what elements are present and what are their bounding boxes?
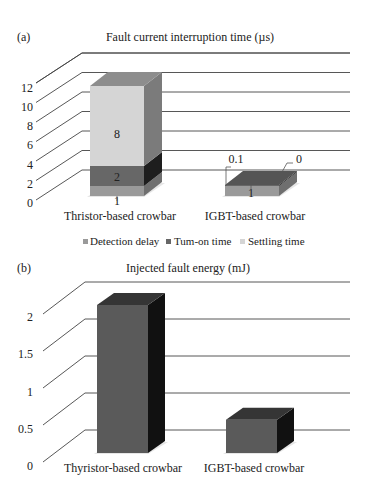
- chart-a-title: Fault current interruption time (µs): [106, 30, 274, 44]
- chart-a-x-axis-labels: Thristor-based crowbar IGBT-based crowba…: [64, 209, 305, 223]
- legend-swatch-detection-delay: [83, 239, 88, 244]
- chart-a-fault-interruption-time: (a) Fault current interruption time (µs)…: [17, 30, 350, 247]
- bar-igbt: [226, 408, 294, 453]
- y-tick-label: 0: [27, 459, 33, 473]
- figure: (a) Fault current interruption time (µs)…: [0, 0, 372, 477]
- leader-line: [282, 163, 293, 172]
- y-tick-label: 0.5: [18, 422, 33, 436]
- legend-label-settling-time: Settling time: [248, 235, 305, 247]
- bar-side-face: [144, 72, 162, 166]
- chart-a-legend: Detection delay Tum-on time Settling tim…: [83, 235, 305, 247]
- chart-a-category-thyristor: Thristor-based crowbar: [64, 209, 176, 223]
- chart-a-category-igbt: IGBT-based crowbar: [205, 209, 306, 223]
- chart-a-panel-label: (a): [17, 30, 30, 44]
- gridline-diagonal: [43, 393, 85, 425]
- bar-segment-settling-time: [90, 72, 162, 166]
- y-tick-label: 8: [27, 119, 33, 133]
- y-tick-label: 2: [27, 310, 33, 324]
- y-tick-label: 0: [27, 196, 33, 210]
- data-label-igbt-settling: 0: [296, 152, 302, 166]
- chart-b-injected-fault-energy: (b) Injected fault energy (mJ) 00.511.52…: [17, 261, 350, 475]
- y-tick-label: 1.5: [18, 347, 33, 361]
- chart-b-gridlines: [43, 282, 350, 462]
- gridline-diagonal: [43, 319, 85, 351]
- data-label-thyristor-settling: 8: [114, 127, 120, 141]
- chart-a-gridlines: [36, 53, 350, 200]
- chart-b-panel-label: (b): [17, 261, 31, 275]
- bar-side-face: [148, 293, 165, 453]
- bar-front-face: [226, 420, 277, 453]
- chart-b-x-axis-labels: Thyristor-based crowbar IGBT-based crowb…: [64, 461, 304, 475]
- legend-label-detection-delay: Detection delay: [90, 235, 160, 247]
- gridline-diagonal: [36, 151, 82, 181]
- gridline-diagonal: [36, 131, 82, 161]
- y-tick-label: 6: [27, 138, 33, 152]
- legend-label-turn-on-time: Tum-on time: [174, 235, 231, 247]
- y-tick-label: 10: [21, 100, 33, 114]
- gridline-diagonal: [36, 170, 82, 200]
- y-tick-label: 1: [27, 385, 33, 399]
- y-tick-label: 4: [27, 158, 33, 172]
- gridline-diagonal: [43, 356, 85, 388]
- data-label-thyristor-turn-on: 2: [114, 170, 120, 184]
- legend-swatch-settling-time: [240, 239, 245, 244]
- chart-b-category-thyristor: Thyristor-based crowbar: [64, 461, 182, 475]
- chart-a-y-axis-ticks: 024681012: [21, 81, 33, 210]
- chart-b-y-axis-ticks: 00.511.52: [18, 310, 33, 473]
- y-tick-label: 2: [27, 177, 33, 191]
- gridline-diagonal: [36, 112, 82, 142]
- gridline-diagonal: [36, 53, 82, 83]
- gridline-diagonal: [36, 92, 82, 122]
- y-tick-label: 12: [21, 81, 33, 95]
- bar-front-face: [90, 86, 144, 166]
- chart-b-title: Injected fault energy (mJ): [126, 261, 250, 275]
- bar-thyristor: [97, 293, 165, 453]
- legend-swatch-turn-on-time: [166, 239, 171, 244]
- bar-front-face: [97, 305, 148, 453]
- gridline-diagonal: [36, 73, 82, 103]
- gridline-diagonal: [43, 430, 85, 462]
- gridline-diagonal: [43, 282, 85, 314]
- data-label-igbt-turn-on: 0.1: [229, 152, 244, 166]
- chart-b-category-igbt: IGBT-based crowbar: [204, 461, 305, 475]
